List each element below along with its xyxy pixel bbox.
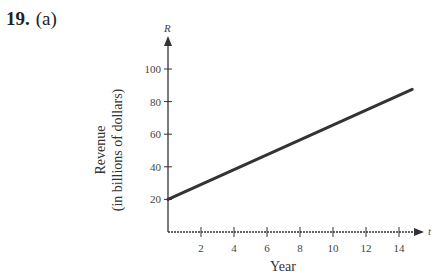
x-tick-label: 14 xyxy=(394,242,406,254)
y-tick-label: 80 xyxy=(150,96,162,108)
x-tick-label: 4 xyxy=(231,242,237,254)
x-axis-title: Year xyxy=(270,259,296,274)
data-series xyxy=(168,89,412,199)
y-tick-label: 20 xyxy=(150,193,162,205)
y-tick-label: 60 xyxy=(150,128,162,140)
x-axis-variable: t xyxy=(428,225,432,237)
y-tick-label: 100 xyxy=(145,63,162,75)
revenue-line xyxy=(168,89,412,199)
y-axis-subtitle: (in billions of dollars) xyxy=(110,88,126,211)
ticks: 204060801002468101214 xyxy=(145,63,406,254)
axes xyxy=(168,38,422,232)
x-tick-label: 8 xyxy=(297,242,303,254)
y-tick-label: 40 xyxy=(150,161,162,173)
x-tick-label: 6 xyxy=(264,242,270,254)
x-tick-label: 2 xyxy=(198,242,204,254)
revenue-chart: 204060801002468101214 R t Year Revenue (… xyxy=(0,0,437,275)
y-axis-variable: R xyxy=(163,22,171,34)
y-axis-title: Revenue xyxy=(93,126,108,175)
x-tick-label: 10 xyxy=(328,242,340,254)
x-tick-label: 12 xyxy=(361,242,372,254)
